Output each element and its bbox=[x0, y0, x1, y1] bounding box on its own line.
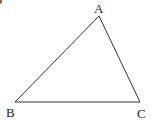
triangle-diagram bbox=[0, 0, 152, 124]
partial-label: P bbox=[0, 0, 2, 9]
vertex-label-c: C bbox=[137, 107, 146, 120]
vertex-label-a: A bbox=[94, 2, 103, 15]
vertex-label-b: B bbox=[6, 106, 15, 119]
triangle-abc bbox=[15, 16, 140, 102]
